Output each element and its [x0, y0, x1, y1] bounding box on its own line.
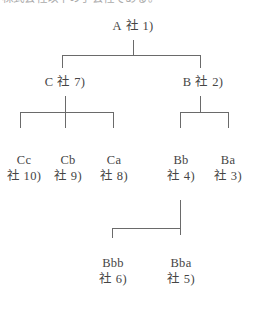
node-bba-name: Bba	[167, 256, 195, 271]
node-bb-name: Bb	[167, 153, 195, 168]
node-bb: Bb 社 4)	[167, 153, 195, 184]
edge-c-to-cb-drop	[65, 112, 66, 128]
node-bba: Bba 社 5)	[167, 256, 195, 287]
edge-c-to-cc-drop	[20, 112, 21, 128]
node-bbb: Bbb 社 6)	[99, 256, 127, 287]
org-hierarchy-diagram: 株式会社以下の子会社である。 A社 1) C社 7) B社 2) Cc 社 10…	[0, 0, 262, 329]
node-bbb-ref: 社 6)	[99, 271, 127, 287]
edge-bb-stem	[180, 200, 181, 235]
node-ba: Ba 社 3)	[214, 153, 242, 184]
edge-a-stem	[133, 40, 134, 55]
edge-bb-bar	[112, 228, 181, 229]
node-bbb-name: Bbb	[99, 256, 127, 271]
node-cb-ref: 社 9)	[54, 168, 82, 184]
edge-a-to-c-drop	[62, 55, 63, 68]
node-c-name: C	[45, 75, 54, 89]
node-ca-ref: 社 8)	[100, 168, 128, 184]
edge-a-to-b-drop	[200, 55, 201, 68]
node-a-ref: 社 1)	[126, 19, 154, 33]
edge-bb-to-bbb-drop	[112, 228, 113, 238]
edge-c-bar	[20, 112, 114, 113]
node-ba-name: Ba	[214, 153, 242, 168]
edge-b-stem	[200, 96, 201, 112]
node-cc: Cc 社 10)	[7, 153, 41, 184]
node-cc-ref: 社 10)	[7, 168, 41, 184]
node-ca: Ca 社 8)	[100, 153, 128, 184]
node-ca-name: Ca	[100, 153, 128, 168]
edge-a-bar	[62, 55, 201, 56]
node-b: B社 2)	[183, 74, 223, 90]
node-cb-name: Cb	[54, 153, 82, 168]
clipped-header-text: 株式会社以下の子会社である。	[2, 0, 242, 5]
edge-b-to-bb-drop	[180, 112, 181, 128]
edge-b-to-ba-drop	[228, 112, 229, 128]
edge-b-bar	[180, 112, 229, 113]
node-ba-ref: 社 3)	[214, 168, 242, 184]
edge-c-stem	[65, 96, 66, 112]
node-b-name: B	[183, 75, 192, 89]
node-a: A社 1)	[112, 18, 153, 34]
node-cb: Cb 社 9)	[54, 153, 82, 184]
node-bb-ref: 社 4)	[167, 168, 195, 184]
node-c-ref: 社 7)	[57, 75, 85, 89]
node-b-ref: 社 2)	[195, 75, 223, 89]
node-c: C社 7)	[45, 74, 85, 90]
node-a-name: A	[112, 19, 121, 33]
node-cc-name: Cc	[7, 153, 41, 168]
node-bba-ref: 社 5)	[167, 271, 195, 287]
edge-c-to-ca-drop	[113, 112, 114, 128]
